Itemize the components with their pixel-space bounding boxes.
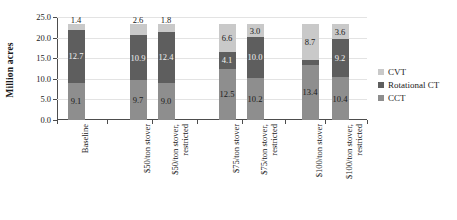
bar-segment-rot[interactable]: 4.1 <box>219 52 236 69</box>
bar-segment-cvt[interactable]: 3.0 <box>247 24 264 36</box>
legend-label: CCT <box>388 93 406 103</box>
legend-label: CVT <box>388 67 406 77</box>
bar-segment-cvt[interactable]: 1.8 <box>158 24 175 31</box>
y-axis-tick <box>53 99 57 100</box>
bar-segment-cct[interactable]: 13.4 <box>302 65 319 120</box>
bar-value-label: 3.6 <box>332 28 349 37</box>
x-axis-label-3: $50/ton stover, restricted <box>171 124 184 218</box>
bar-value-label: 10.2 <box>247 95 264 104</box>
bar-segment-cct[interactable]: 10.4 <box>332 77 349 120</box>
plot-area: 0.05.010.015.020.025.09.112.71.49.710.92… <box>57 17 367 120</box>
bar-value-label: 12.7 <box>68 52 85 61</box>
x-axis-label-1: Baseline <box>81 124 94 218</box>
bar-value-label: 12.5 <box>219 90 236 99</box>
y-axis-tick <box>53 58 57 59</box>
bar-value-label: 9.0 <box>158 97 175 106</box>
bar-segment-rot[interactable]: 10.9 <box>130 35 147 80</box>
bar-segment-cct[interactable]: 9.1 <box>68 83 85 120</box>
bar-value-label: 13.4 <box>302 88 319 97</box>
bar-value-label: 2.6 <box>130 16 147 25</box>
y-axis-tick-label: 5.0 <box>40 94 51 104</box>
bar-value-label: 12.4 <box>158 53 175 62</box>
bar-segment-rot[interactable]: 12.4 <box>158 32 175 83</box>
bar-segment-cvt[interactable]: 8.7 <box>302 24 319 60</box>
bar-segment-cvt[interactable]: 1.4 <box>68 24 85 30</box>
legend-item-cvt[interactable]: CVT <box>378 67 439 77</box>
y-axis-tick-label: 0.0 <box>40 115 51 125</box>
y-axis-tick <box>53 38 57 39</box>
x-axis-line <box>57 119 367 120</box>
x-axis-label-4: $75/ton stover <box>232 124 245 218</box>
bar-value-label: 10.0 <box>247 53 264 62</box>
y-axis-tick-label: 15.0 <box>36 53 51 63</box>
bar-segment-cct[interactable]: 12.5 <box>219 69 236 121</box>
bar-value-label: 3.0 <box>247 26 264 35</box>
bar-value-label: 10.9 <box>130 53 147 62</box>
x-axis-label-7: $100/ton stover, restricted <box>345 124 358 218</box>
y-axis-tick-label: 20.0 <box>36 33 51 43</box>
bar-value-label: 6.6 <box>219 34 236 43</box>
bar-value-label: 9.7 <box>130 96 147 105</box>
gridline <box>57 38 367 39</box>
chart-legend: CVTRotational CTCCT <box>378 67 439 106</box>
bar-segment-cct[interactable]: 10.2 <box>247 78 264 120</box>
x-axis-label-6: $100/ton stover <box>315 124 328 218</box>
bar-segment-cvt[interactable]: 3.6 <box>332 24 349 39</box>
y-axis-line <box>57 17 58 120</box>
bar-segment-rot[interactable]: 9.2 <box>332 39 349 77</box>
legend-swatch-icon <box>378 82 384 88</box>
bar-value-label: 1.8 <box>158 16 175 25</box>
y-axis-tick <box>53 79 57 80</box>
x-axis-label-5: $75/ton stover, restricted <box>260 124 273 218</box>
bar-value-label: 9.2 <box>332 54 349 63</box>
bar-value-label: 1.4 <box>68 16 85 25</box>
y-axis-tick <box>53 17 57 18</box>
gridline <box>57 17 367 18</box>
legend-item-rotational-ct[interactable]: Rotational CT <box>378 80 439 90</box>
bar-value-label: 10.4 <box>332 94 349 103</box>
x-axis-tick <box>367 120 368 124</box>
y-axis-tick-label: 10.0 <box>36 74 51 84</box>
y-axis-title: Million acres <box>2 18 18 122</box>
bar-segment-cvt[interactable]: 2.6 <box>130 24 147 35</box>
stacked-bar-chart: Million acres 0.05.010.015.020.025.09.11… <box>0 0 457 220</box>
bar-value-label: 8.7 <box>302 38 319 47</box>
bar-segment-cct[interactable]: 9.7 <box>130 80 147 120</box>
bar-value-label: 9.1 <box>68 97 85 106</box>
gridline <box>57 99 367 100</box>
bar-value-label: 4.1 <box>219 56 236 65</box>
y-axis-title-text: Million acres <box>5 42 15 97</box>
gridline <box>57 79 367 80</box>
bar-segment-rot[interactable]: 12.7 <box>68 30 85 82</box>
x-axis-labels: Baseline$50/ton stover$50/ton stover, re… <box>57 124 367 218</box>
bar-segment-cct[interactable]: 9.0 <box>158 83 175 120</box>
legend-swatch-icon <box>378 95 384 101</box>
x-axis-label-2: $50/ton stover <box>143 124 156 218</box>
legend-label: Rotational CT <box>388 80 439 90</box>
y-axis-tick-label: 25.0 <box>36 12 51 22</box>
bar-segment-cvt[interactable]: 6.6 <box>219 24 236 51</box>
bar-segment-rot[interactable]: 10.0 <box>247 37 264 78</box>
legend-item-cct[interactable]: CCT <box>378 93 439 103</box>
legend-swatch-icon <box>378 69 384 75</box>
bar-segment-rot[interactable]: 1.1 <box>302 60 319 65</box>
gridline <box>57 58 367 59</box>
